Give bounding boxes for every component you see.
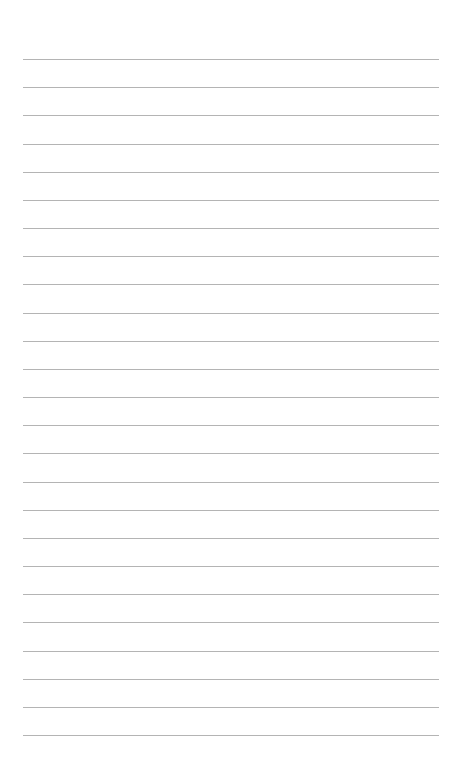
ruled-line — [23, 482, 439, 483]
ruled-line — [23, 115, 439, 116]
ruled-line — [23, 397, 439, 398]
ruled-line — [23, 679, 439, 680]
ruled-line — [23, 59, 439, 60]
ruled-line — [23, 594, 439, 595]
ruled-line — [23, 510, 439, 511]
ruled-line — [23, 651, 439, 652]
ruled-line — [23, 228, 439, 229]
ruled-line — [23, 313, 439, 314]
ruled-line — [23, 707, 439, 708]
ruled-line — [23, 172, 439, 173]
ruled-line — [23, 453, 439, 454]
ruled-line — [23, 87, 439, 88]
ruled-line — [23, 566, 439, 567]
lined-paper-page — [0, 0, 463, 761]
ruled-line — [23, 284, 439, 285]
ruled-line — [23, 538, 439, 539]
ruled-line — [23, 200, 439, 201]
ruled-line — [23, 735, 439, 736]
ruled-line — [23, 425, 439, 426]
ruled-line — [23, 256, 439, 257]
ruled-line — [23, 622, 439, 623]
ruled-line — [23, 369, 439, 370]
ruled-line — [23, 144, 439, 145]
ruled-line — [23, 341, 439, 342]
